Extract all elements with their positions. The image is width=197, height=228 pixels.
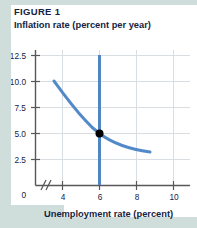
x-axis-title: Unemployment rate (percent): [44, 209, 173, 219]
page-background-strip-left: [0, 0, 11, 228]
equilibrium-point: [96, 130, 104, 138]
horizontal-gridlines: [35, 56, 190, 160]
x-tick-label-8: 8: [129, 192, 145, 202]
vertical-gridlines: [63, 50, 174, 185]
phillips-curve: [54, 81, 150, 152]
x-tick-label-6: 6: [92, 192, 108, 202]
x-tick-label-4: 4: [55, 192, 71, 202]
x-tick-label-10: 10: [166, 192, 182, 202]
